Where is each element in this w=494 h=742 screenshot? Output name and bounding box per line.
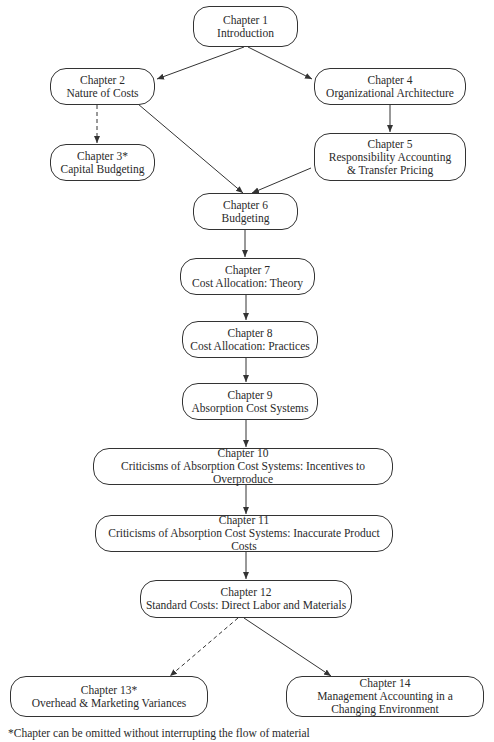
- chapter-label: Chapter 2: [80, 74, 125, 87]
- chapter-label: Chapter 1: [223, 14, 268, 27]
- node-chapter-1: Chapter 1 Introduction: [193, 6, 298, 47]
- node-chapter-14: Chapter 14 Management Accounting in a Ch…: [286, 676, 484, 717]
- chapter-title: Overhead & Marketing Variances: [32, 697, 187, 710]
- node-chapter-13: Chapter 13* Overhead & Marketing Varianc…: [10, 676, 208, 717]
- node-chapter-8: Chapter 8 Cost Allocation: Practices: [182, 321, 318, 358]
- node-chapter-7: Chapter 7 Cost Allocation: Theory: [180, 258, 315, 295]
- chapter-label: Chapter 6: [223, 199, 268, 212]
- chapter-label: Chapter 5: [367, 138, 412, 151]
- chapter-title: Introduction: [217, 27, 274, 40]
- chapter-title: Management Accounting in a: [317, 690, 453, 703]
- edge-ch1-ch4: [248, 47, 312, 79]
- chapter-title: Cost Allocation: Practices: [190, 340, 309, 353]
- chapter-title: Absorption Cost Systems: [192, 402, 309, 415]
- node-chapter-3: Chapter 3* Capital Budgeting: [50, 144, 155, 181]
- edge-ch1-ch2: [157, 47, 244, 79]
- chapter-label: Chapter 10: [218, 447, 269, 460]
- edge-ch12-ch13: [170, 618, 238, 676]
- chapter-title: Standard Costs: Direct Labor and Materia…: [146, 599, 346, 612]
- node-chapter-6: Chapter 6 Budgeting: [193, 193, 298, 230]
- chapter-label: Chapter 4: [367, 74, 412, 87]
- chapter-label: Chapter 12: [221, 586, 272, 599]
- chapter-title: Budgeting: [222, 212, 270, 225]
- edge-ch5-ch6: [252, 168, 311, 193]
- chapter-title: Cost Allocation: Theory: [192, 277, 303, 290]
- chapter-label: Chapter 11: [219, 514, 269, 527]
- chapter-title: Criticisms of Absorption Cost Systems: I…: [94, 460, 392, 486]
- node-chapter-10: Chapter 10 Criticisms of Absorption Cost…: [93, 448, 393, 485]
- chapter-title-line2: & Transfer Pricing: [347, 164, 433, 177]
- node-chapter-12: Chapter 12 Standard Costs: Direct Labor …: [140, 580, 352, 618]
- edges-layer: [0, 0, 494, 742]
- node-chapter-5: Chapter 5 Responsibility Accounting & Tr…: [314, 133, 466, 181]
- chapter-title-line2: Changing Environment: [331, 703, 439, 716]
- chapter-title: Nature of Costs: [66, 87, 138, 100]
- node-chapter-4: Chapter 4 Organizational Architecture: [314, 68, 466, 105]
- chapter-label: Chapter 14: [360, 677, 411, 690]
- chapter-title: Capital Budgeting: [60, 163, 144, 176]
- node-chapter-9: Chapter 9 Absorption Cost Systems: [182, 383, 318, 420]
- chapter-title: Responsibility Accounting: [329, 151, 451, 164]
- chapter-label: Chapter 9: [227, 389, 272, 402]
- chapter-label: Chapter 7: [225, 264, 270, 277]
- chapter-title: Organizational Architecture: [326, 87, 454, 100]
- edge-ch12-ch14: [244, 618, 331, 676]
- chapter-label: Chapter 8: [227, 327, 272, 340]
- chapter-label: Chapter 13*: [81, 684, 138, 697]
- node-chapter-11: Chapter 11 Criticisms of Absorption Cost…: [95, 515, 393, 552]
- footnote: *Chapter can be omitted without interrup…: [8, 727, 310, 739]
- node-chapter-2: Chapter 2 Nature of Costs: [50, 68, 155, 105]
- edge-ch2-ch6: [138, 104, 243, 193]
- chapter-label: Chapter 3*: [77, 150, 128, 163]
- chapter-title: Criticisms of Absorption Cost Systems: I…: [96, 527, 392, 553]
